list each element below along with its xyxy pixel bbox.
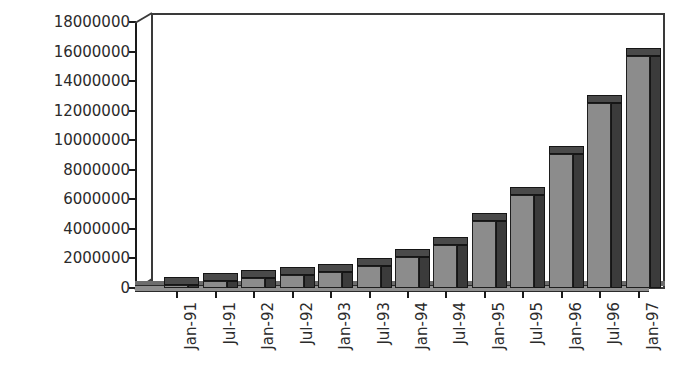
bar-side-face bbox=[534, 195, 545, 288]
y-axis-tick-label: 18000000 bbox=[54, 13, 130, 31]
bar-top-face bbox=[587, 95, 622, 103]
bar bbox=[433, 237, 457, 288]
x-axis-tick-label: Jan-95 bbox=[490, 302, 508, 350]
bar-top-face bbox=[280, 267, 315, 275]
bar-top-face bbox=[510, 187, 545, 195]
bar-top-face bbox=[472, 213, 507, 221]
bar-side-face bbox=[227, 281, 238, 288]
bar-front-face bbox=[357, 266, 381, 288]
bar-side-face bbox=[304, 275, 315, 288]
bar-side-face bbox=[342, 272, 353, 288]
x-axis-tick-mark bbox=[407, 291, 409, 298]
x-axis-tick-label: Jul-96 bbox=[605, 302, 623, 345]
bar-side-face bbox=[419, 257, 430, 288]
y-axis-tick-label: 4000000 bbox=[63, 220, 130, 238]
bar bbox=[357, 258, 381, 288]
y-axis-tick-label: 12000000 bbox=[54, 102, 130, 120]
x-axis-tick-label: Jan-93 bbox=[336, 302, 354, 350]
bar-top-face bbox=[203, 273, 238, 281]
bar-top-face bbox=[433, 237, 468, 245]
x-axis-tick-label: Jul-91 bbox=[221, 302, 239, 345]
bar-side-face bbox=[457, 245, 468, 288]
x-axis-tick-label: Jan-91 bbox=[182, 302, 200, 350]
x-axis-tick-mark bbox=[253, 291, 255, 298]
bar-chart: 0200000040000006000000800000010000000120… bbox=[0, 0, 689, 390]
bar-top-face bbox=[549, 146, 584, 154]
bar-side-face bbox=[573, 154, 584, 288]
x-axis-tick-mark bbox=[292, 291, 294, 298]
bar-side-face bbox=[381, 266, 392, 288]
bar-front-face bbox=[241, 278, 265, 288]
x-axis-tick-mark bbox=[522, 291, 524, 298]
bar-front-face bbox=[472, 221, 496, 288]
bar bbox=[280, 267, 304, 288]
x-axis-tick-mark bbox=[176, 291, 178, 298]
x-axis-tick-label: Jul-94 bbox=[451, 302, 469, 345]
bar-front-face bbox=[510, 195, 534, 288]
bar bbox=[549, 146, 573, 288]
y-axis-tick-label: 14000000 bbox=[54, 72, 130, 90]
bar-top-face bbox=[318, 264, 353, 272]
x-axis-tick-mark bbox=[369, 291, 371, 298]
bar bbox=[510, 187, 534, 288]
bar bbox=[203, 273, 227, 288]
x-axis-tick-label: Jul-92 bbox=[298, 302, 316, 345]
y-axis-line bbox=[135, 22, 137, 289]
bar-front-face bbox=[164, 285, 188, 288]
bar-side-face bbox=[265, 278, 276, 288]
bar-front-face bbox=[280, 275, 304, 288]
bar bbox=[587, 95, 611, 288]
bar bbox=[318, 264, 342, 288]
y-axis-tick-label: 10000000 bbox=[54, 131, 130, 149]
bar-top-face bbox=[241, 270, 276, 278]
bar bbox=[164, 277, 188, 288]
plot-area bbox=[151, 13, 665, 289]
x-axis-tick-mark bbox=[215, 291, 217, 298]
x-axis-tick-label: Jan-94 bbox=[413, 302, 431, 350]
x-axis-tick-label: Jul-95 bbox=[528, 302, 546, 345]
x-axis-tick-label: Jan-92 bbox=[259, 302, 277, 350]
y-axis-tick-label: 8000000 bbox=[63, 161, 130, 179]
bar-top-face bbox=[164, 277, 199, 285]
x-axis-tick-mark bbox=[330, 291, 332, 298]
bar-front-face bbox=[318, 272, 342, 288]
bar-side-face bbox=[611, 103, 622, 288]
bar-front-face bbox=[626, 56, 650, 288]
bar-top-face bbox=[395, 249, 430, 257]
bar bbox=[472, 213, 496, 288]
x-axis-tick-label: Jul-93 bbox=[375, 302, 393, 345]
bar bbox=[395, 249, 419, 288]
y-axis-labels: 0200000040000006000000800000010000000120… bbox=[8, 0, 130, 390]
bar-front-face bbox=[549, 154, 573, 288]
bar-side-face bbox=[188, 285, 199, 288]
x-axis-tick-label: Jan-97 bbox=[644, 302, 662, 350]
bar-side-face bbox=[496, 221, 507, 288]
x-axis-tick-mark bbox=[445, 291, 447, 298]
y-axis-tick-label: 6000000 bbox=[63, 190, 130, 208]
bar-top-face bbox=[626, 48, 661, 56]
x-axis-tick-label: Jan-96 bbox=[567, 302, 585, 350]
x-axis-tick-mark bbox=[484, 291, 486, 298]
bar-front-face bbox=[433, 245, 457, 288]
y-axis-tick-label: 2000000 bbox=[63, 249, 130, 267]
bar bbox=[626, 48, 650, 288]
x-axis-tick-mark bbox=[638, 291, 640, 298]
bar-side-face bbox=[650, 56, 661, 288]
x-axis-tick-mark bbox=[599, 291, 601, 298]
bar-front-face bbox=[203, 281, 227, 288]
bar-top-face bbox=[357, 258, 392, 266]
bar-front-face bbox=[395, 257, 419, 288]
x-axis-tick-mark bbox=[561, 291, 563, 298]
bar-front-face bbox=[587, 103, 611, 288]
y-axis-tick-label: 16000000 bbox=[54, 43, 130, 61]
bar bbox=[241, 270, 265, 288]
